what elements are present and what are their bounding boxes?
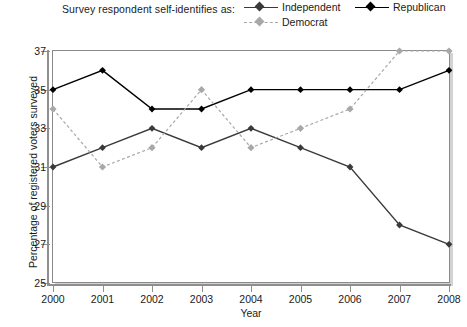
line-chart: Survey respondent self-identifies as: In… xyxy=(0,0,467,327)
x-tick-mark xyxy=(103,284,104,292)
legend-label-republican: Republican xyxy=(393,1,446,13)
x-tick-mark xyxy=(251,284,252,292)
legend-swatch-independent xyxy=(244,2,278,13)
x-tick-label: 2006 xyxy=(328,293,372,305)
x-tick-mark xyxy=(301,284,302,292)
x-tick-label: 2003 xyxy=(180,293,224,305)
legend-item-republican: Republican xyxy=(355,1,446,13)
x-tick-mark xyxy=(202,284,203,292)
x-axis-title: Year xyxy=(52,307,450,319)
x-tick-mark xyxy=(449,284,450,292)
x-axis-line xyxy=(47,284,451,286)
legend-swatch-republican xyxy=(355,2,389,13)
x-tick-mark xyxy=(400,284,401,292)
x-tick-label: 2004 xyxy=(229,293,273,305)
plot-area xyxy=(52,50,450,283)
diamond-marker-icon xyxy=(255,1,265,11)
legend-label-democrat: Democrat xyxy=(282,16,328,28)
x-tick-label: 2005 xyxy=(279,293,323,305)
x-tick-mark xyxy=(350,284,351,292)
legend-item-democrat: Democrat xyxy=(244,16,328,28)
legend-item-independent: Independent xyxy=(244,1,340,13)
legend-label-independent: Independent xyxy=(282,1,340,13)
chart-legend: Survey respondent self-identifies as: In… xyxy=(0,0,467,40)
y-axis-title: Percentage of registered voters surveyed xyxy=(27,52,39,292)
x-tick-label: 2000 xyxy=(31,293,75,305)
plot-frame-shadow-right xyxy=(450,53,453,286)
x-tick-label: 2001 xyxy=(81,293,125,305)
x-tick-mark xyxy=(53,284,54,292)
y-axis-line xyxy=(47,50,49,286)
x-tick-label: 2002 xyxy=(130,293,174,305)
x-tick-label: 2007 xyxy=(378,293,422,305)
diamond-marker-icon xyxy=(366,1,376,11)
x-tick-mark xyxy=(152,284,153,292)
legend-swatch-democrat xyxy=(244,17,278,28)
x-tick-label: 2008 xyxy=(427,293,467,305)
diamond-marker-icon xyxy=(255,16,265,26)
legend-caption: Survey respondent self-identifies as: xyxy=(62,3,235,15)
